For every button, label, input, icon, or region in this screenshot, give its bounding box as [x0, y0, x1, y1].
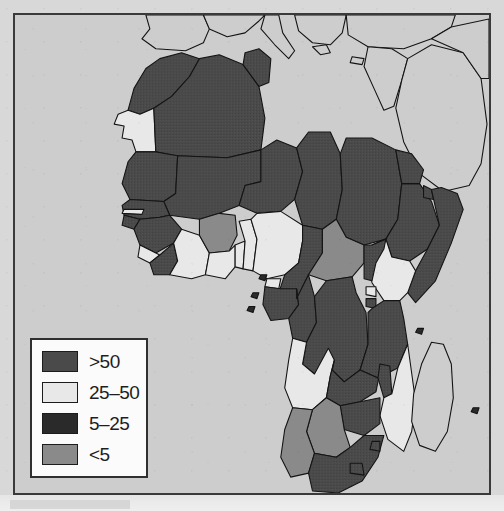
legend-label-5-25: 5–25: [89, 414, 129, 433]
legend-swatch-gt50: [42, 351, 78, 372]
country-gambia: [122, 209, 144, 214]
page-edge-smudge: [10, 500, 130, 509]
legend-item-gt50: >50: [42, 349, 146, 375]
legend-swatch-25-50: [42, 382, 78, 403]
legend-label-gt50: >50: [89, 352, 120, 371]
country-mauritania: [122, 152, 178, 202]
legend-label-lt5: <5: [89, 445, 110, 464]
legend-label-25-50: 25–50: [89, 383, 139, 402]
country-rwanda: [366, 287, 376, 297]
country-swaziland: [370, 441, 380, 451]
legend-item-25-50: 25–50: [42, 380, 146, 406]
country-lesotho: [350, 463, 364, 475]
page-bottom-edge: [0, 495, 504, 511]
page-background: >50 25–50 5–25 <5: [0, 0, 504, 511]
legend-swatch-lt5: [42, 444, 78, 465]
map-legend: >50 25–50 5–25 <5: [30, 338, 148, 478]
country-chad: [295, 132, 343, 229]
legend-swatch-5-25: [42, 413, 78, 434]
island-cyprus: [350, 57, 364, 65]
legend-item-lt5: <5: [42, 442, 146, 468]
legend-item-5-25: 5–25: [42, 411, 146, 437]
